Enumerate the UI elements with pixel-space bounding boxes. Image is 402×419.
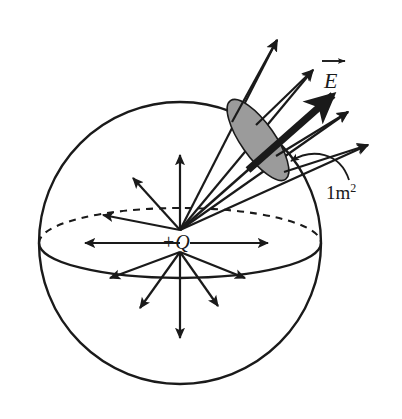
area-exponent: 2 bbox=[350, 181, 356, 195]
area-label: 1m2 bbox=[326, 181, 356, 203]
charge-symbol: Q bbox=[175, 231, 190, 253]
charge-sign: + bbox=[163, 231, 174, 253]
e-field-label-group: E bbox=[322, 61, 345, 93]
point-charge-label: +Q bbox=[163, 231, 190, 253]
area-value: 1m bbox=[326, 182, 351, 203]
diagram-canvas: +Q E 1m2 bbox=[0, 0, 402, 419]
e-field-label: E bbox=[323, 68, 338, 93]
gauss-law-figure: +Q E 1m2 bbox=[0, 0, 402, 419]
